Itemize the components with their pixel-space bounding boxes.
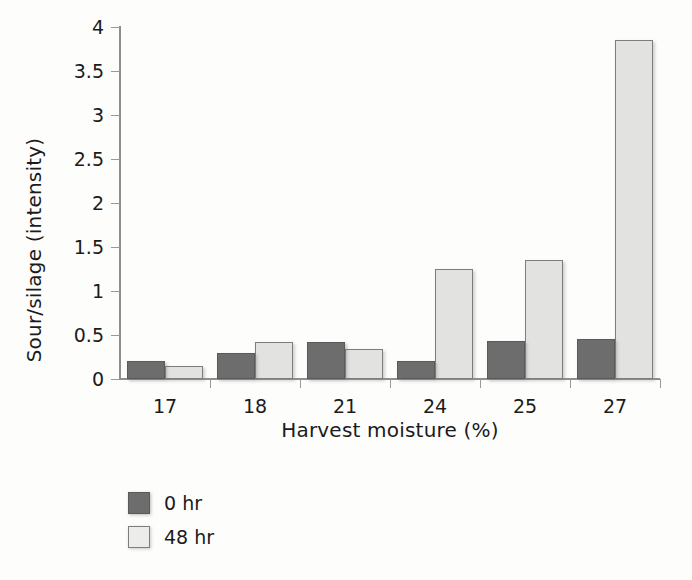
- y-tick-label: 1: [42, 282, 104, 301]
- y-tick-label: 2.5: [42, 150, 104, 169]
- bar-17-48-hr: [165, 366, 203, 379]
- y-tick-label: 3.5: [42, 62, 104, 81]
- y-tick-label: 1.5: [42, 238, 104, 257]
- y-tick-label: 0: [42, 370, 104, 389]
- legend-swatch-icon: [128, 492, 150, 514]
- x-tick-mark: [210, 379, 211, 388]
- x-tick-label: 25: [490, 395, 560, 417]
- x-tick-label: 17: [130, 395, 200, 417]
- bar-27-0-hr: [577, 339, 615, 379]
- x-tick-label: 18: [220, 395, 290, 417]
- bar-24-0-hr: [397, 361, 435, 379]
- y-tick-label: 3: [42, 106, 104, 125]
- legend-label: 0 hr: [164, 492, 202, 514]
- bar-25-0-hr: [487, 341, 525, 379]
- y-tick-mark: [111, 291, 120, 292]
- bar-chart-figure: Sour/silage (intensity) 00.511.522.533.5…: [0, 0, 692, 580]
- legend-label: 48 hr: [164, 526, 214, 548]
- bar-18-0-hr: [217, 353, 255, 379]
- y-tick-label: 4: [42, 18, 104, 37]
- plot-area: 00.511.522.533.54 171821242527: [120, 27, 660, 379]
- y-tick-mark: [111, 27, 120, 28]
- bar-21-48-hr: [345, 349, 383, 379]
- chart-legend: 0 hr48 hr: [128, 486, 214, 554]
- y-tick-mark: [111, 115, 120, 116]
- y-tick-mark: [111, 247, 120, 248]
- x-tick-label: 24: [400, 395, 470, 417]
- bar-18-48-hr: [255, 342, 293, 379]
- y-tick-mark: [111, 71, 120, 72]
- x-tick-mark: [390, 379, 391, 388]
- bar-27-48-hr: [615, 40, 653, 379]
- y-tick-mark: [111, 159, 120, 160]
- bar-25-48-hr: [525, 260, 563, 379]
- x-tick-mark: [570, 379, 571, 388]
- y-tick-mark: [111, 203, 120, 204]
- y-tick-mark: [111, 379, 120, 380]
- legend-swatch-icon: [128, 526, 150, 548]
- x-tick-mark: [300, 379, 301, 388]
- x-tick-mark: [660, 379, 661, 388]
- legend-item-48-hr[interactable]: 48 hr: [128, 520, 214, 554]
- bar-21-0-hr: [307, 342, 345, 379]
- x-axis-title: Harvest moisture (%): [120, 418, 660, 442]
- x-tick-label: 27: [580, 395, 650, 417]
- x-tick-mark: [480, 379, 481, 388]
- x-tick-label: 21: [310, 395, 380, 417]
- bar-17-0-hr: [127, 361, 165, 379]
- legend-item-0-hr[interactable]: 0 hr: [128, 486, 214, 520]
- y-tick-label: 0.5: [42, 326, 104, 345]
- bar-24-48-hr: [435, 269, 473, 379]
- y-tick-label: 2: [42, 194, 104, 213]
- y-tick-mark: [111, 335, 120, 336]
